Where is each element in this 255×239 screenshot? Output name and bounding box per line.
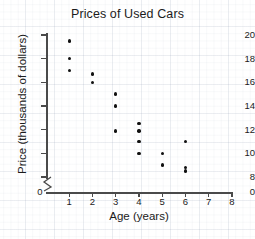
y-axis-title: Price (thousands of dollars)	[16, 19, 28, 189]
y-tick-label-20: 20	[219, 29, 255, 40]
x-tick-label-4: 4	[128, 196, 150, 207]
data-point	[91, 72, 94, 75]
data-point	[114, 104, 117, 107]
x-tick-label-5: 5	[151, 196, 173, 207]
data-point	[137, 122, 140, 125]
x-tick-label-3: 3	[105, 196, 127, 207]
data-point	[137, 152, 140, 155]
data-point	[91, 81, 94, 84]
chart-title: Prices of Used Cars	[0, 7, 255, 21]
y-tick-label-18: 18	[219, 53, 255, 64]
data-point	[68, 57, 71, 60]
data-point	[68, 69, 71, 72]
data-point	[161, 152, 164, 155]
data-point	[137, 129, 140, 132]
data-point	[68, 39, 71, 42]
x-tick-label-6: 6	[175, 196, 197, 207]
data-point	[184, 169, 187, 172]
y-tick-16	[41, 82, 46, 83]
y-tick-18	[41, 58, 46, 59]
y-tick-label-10: 10	[219, 147, 255, 158]
x-tick-label-1: 1	[58, 196, 80, 207]
y-tick-12	[41, 129, 46, 130]
y-tick-label-12: 12	[219, 124, 255, 135]
y-tick-20	[41, 34, 46, 35]
data-point	[114, 92, 117, 95]
data-point	[114, 129, 117, 132]
y-tick-14	[41, 105, 46, 106]
y-tick-10	[41, 153, 46, 154]
scatter-plot-prices-of-used-cars: Prices of Used Cars 81012141618200 01234…	[0, 0, 255, 239]
x-tick-label-2: 2	[82, 196, 104, 207]
data-point	[184, 140, 187, 143]
x-tick-label-7: 7	[198, 196, 220, 207]
x-axis-title: Age (years)	[46, 210, 232, 222]
y-axis-line	[46, 33, 48, 179]
data-point	[161, 163, 164, 166]
x-tick-label-0: 0	[29, 186, 51, 197]
y-tick-8	[41, 176, 46, 177]
data-point	[137, 140, 140, 143]
y-tick-label-8: 8	[219, 171, 255, 182]
x-tick-label-8: 8	[221, 196, 243, 207]
y-tick-label-16: 16	[219, 76, 255, 87]
y-tick-label-14: 14	[219, 100, 255, 111]
